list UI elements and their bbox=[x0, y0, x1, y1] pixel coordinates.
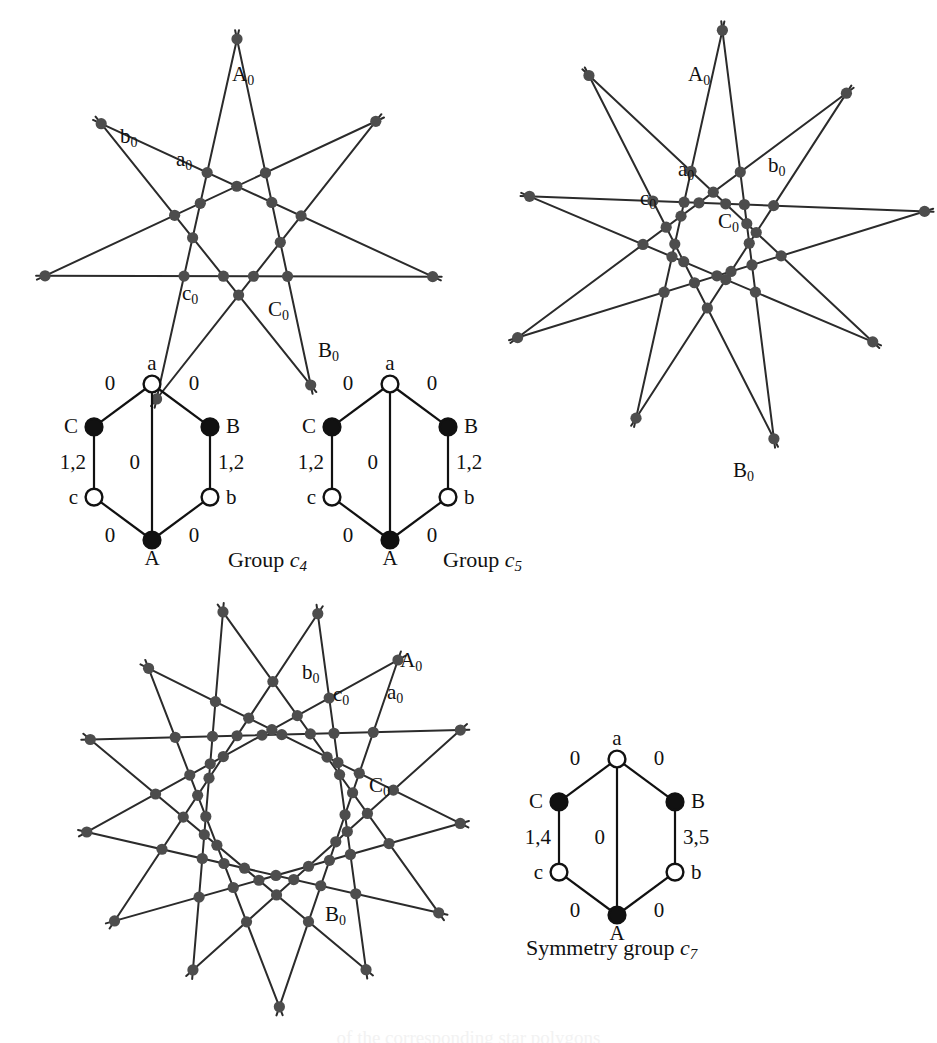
label-base: b bbox=[768, 153, 779, 177]
star-polygon-c7 bbox=[40, 590, 510, 1020]
label-base: A bbox=[688, 62, 703, 86]
label-base: C bbox=[718, 209, 732, 233]
star-label-star-c5-b0: b0 bbox=[768, 153, 786, 180]
hex-edge-label-middle: 0 bbox=[368, 450, 379, 474]
label-subscript: 0 bbox=[247, 73, 254, 88]
star-label-star-c4-C0: C0 bbox=[268, 297, 289, 324]
hex-edge-label-top_left: 0 bbox=[570, 746, 581, 770]
star-label-star-c5-A0: A0 bbox=[688, 62, 710, 89]
label-subscript: 0 bbox=[332, 349, 339, 364]
caption-prefix: Symmetry group bbox=[526, 935, 680, 960]
hex-edge-label-top_right: 0 bbox=[427, 371, 438, 395]
star-label-star-c5-B0: B0 bbox=[733, 458, 754, 485]
hex-edge-label-right_side: 3,5 bbox=[683, 825, 709, 849]
caption-symbol: c bbox=[680, 935, 690, 960]
label-base: c bbox=[182, 281, 191, 305]
label-subscript: 0 bbox=[649, 197, 656, 212]
caption-subscript: 7 bbox=[690, 946, 698, 962]
hex-node-label-b: b bbox=[691, 860, 702, 884]
caption-prefix: Group bbox=[228, 547, 290, 572]
hex-node-label-c: c bbox=[307, 485, 316, 509]
hex-node-label-C: C bbox=[302, 414, 316, 438]
star-label-star-c7-c0: c0 bbox=[333, 682, 349, 709]
label-subscript: 0 bbox=[396, 691, 403, 706]
label-base: b bbox=[120, 124, 131, 148]
hexagon-graph-c5: aBbAcC001,21,2000 bbox=[278, 370, 508, 560]
label-subscript: 0 bbox=[687, 168, 694, 183]
label-subscript: 0 bbox=[191, 292, 198, 307]
label-base: B bbox=[733, 458, 747, 482]
hex-edge-label-top_left: 0 bbox=[105, 371, 116, 395]
hex-edge-label-bottom_left: 0 bbox=[343, 523, 354, 547]
star-label-star-c4-B0: B0 bbox=[318, 338, 339, 365]
label-subscript: 0 bbox=[747, 469, 754, 484]
hex-node-label-C: C bbox=[529, 789, 543, 813]
hex-node-label-A: A bbox=[144, 546, 160, 570]
star-label-star-c4-c0: c0 bbox=[182, 281, 198, 308]
star-label-star-c7-B0: B0 bbox=[325, 902, 346, 929]
hex-node-label-b: b bbox=[226, 485, 237, 509]
label-base: a bbox=[176, 147, 185, 171]
hexagon-graph-c7: aBbAcC001,43,5000 bbox=[505, 745, 735, 935]
hex-edge-label-bottom_right: 0 bbox=[189, 523, 200, 547]
star-label-star-c4-a0: a0 bbox=[176, 147, 192, 174]
hex-edge-label-bottom_right: 0 bbox=[654, 898, 665, 922]
label-base: B bbox=[325, 902, 339, 926]
hex-edge-label-top_left: 0 bbox=[343, 371, 354, 395]
label-base: b bbox=[302, 660, 313, 684]
label-subscript: 0 bbox=[342, 693, 349, 708]
label-base: B bbox=[318, 338, 332, 362]
caption-subscript: 5 bbox=[514, 558, 522, 574]
star-label-star-c4-b0: b0 bbox=[120, 124, 138, 151]
hex-edge-label-middle: 0 bbox=[595, 825, 606, 849]
hex-edge-label-left_side: 1,2 bbox=[60, 450, 86, 474]
star-label-star-c4-A0: A0 bbox=[232, 62, 254, 89]
label-subscript: 0 bbox=[703, 73, 710, 88]
label-subscript: 0 bbox=[313, 671, 320, 686]
hex-edge-label-bottom_right: 0 bbox=[427, 523, 438, 547]
hex-edge-label-top_right: 0 bbox=[189, 371, 200, 395]
label-subscript: 0 bbox=[131, 135, 138, 150]
label-base: c bbox=[640, 186, 649, 210]
label-base: C bbox=[369, 773, 383, 797]
caption-symmetry-group-c7: Symmetry group c7 bbox=[526, 935, 697, 963]
star-label-star-c7-A0: A0 bbox=[400, 648, 422, 675]
figure-root: aBbAcC001,21,2000 aBbAcC001,21,2000 aBbA… bbox=[0, 0, 937, 1043]
label-base: a bbox=[678, 157, 687, 181]
hexagon-graph-c4: aBbAcC001,21,2000 bbox=[40, 370, 270, 560]
hex-node-label-B: B bbox=[464, 414, 478, 438]
label-subscript: 0 bbox=[282, 308, 289, 323]
label-base: a bbox=[387, 680, 396, 704]
hex-edge-label-left_side: 1,2 bbox=[298, 450, 324, 474]
star-label-star-c5-c0: c0 bbox=[640, 186, 656, 213]
label-subscript: 0 bbox=[383, 784, 390, 799]
label-subscript: 0 bbox=[779, 164, 786, 179]
hex-edge-label-right_side: 1,2 bbox=[456, 450, 482, 474]
hex-node-label-B: B bbox=[226, 414, 240, 438]
hex-node-label-C: C bbox=[64, 414, 78, 438]
label-subscript: 0 bbox=[339, 913, 346, 928]
caption-group-c4: Group c4 bbox=[228, 547, 307, 575]
star-label-star-c7-C0: C0 bbox=[369, 773, 390, 800]
star-label-star-c5-a0: a0 bbox=[678, 157, 694, 184]
label-base: A bbox=[400, 648, 415, 672]
hex-edge-label-top_right: 0 bbox=[654, 746, 665, 770]
label-base: A bbox=[232, 62, 247, 86]
hex-node-label-a: a bbox=[147, 351, 157, 375]
label-subscript: 0 bbox=[415, 659, 422, 674]
label-subscript: 0 bbox=[185, 158, 192, 173]
star-label-star-c7-a0: a0 bbox=[387, 680, 403, 707]
hex-node-label-a: a bbox=[612, 726, 622, 750]
hex-edge-label-bottom_left: 0 bbox=[570, 898, 581, 922]
hex-node-label-b: b bbox=[464, 485, 475, 509]
caption-group-c5: Group c5 bbox=[443, 547, 522, 575]
hex-edge-label-left_side: 1,4 bbox=[525, 825, 552, 849]
bottom-cut-caption: of the corresponding star polygons bbox=[0, 1027, 937, 1043]
caption-subscript: 4 bbox=[299, 558, 307, 574]
label-base: c bbox=[333, 682, 342, 706]
hex-node-label-A: A bbox=[382, 546, 398, 570]
hex-edge-label-bottom_left: 0 bbox=[105, 523, 116, 547]
label-subscript: 0 bbox=[732, 220, 739, 235]
hex-node-label-c: c bbox=[69, 485, 78, 509]
hex-edge-label-middle: 0 bbox=[130, 450, 141, 474]
